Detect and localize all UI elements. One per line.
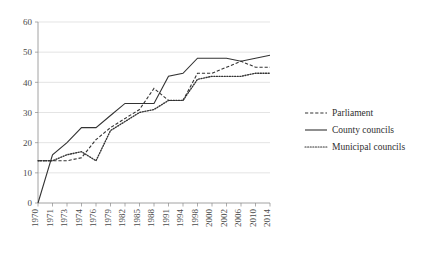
y-tick-label: 10 <box>23 168 33 178</box>
chart-canvas: 0102030405060 19701971197319741976197919… <box>0 0 422 256</box>
x-tick-label: 2014 <box>262 209 272 228</box>
x-tick-label: 2010 <box>248 209 258 228</box>
x-tick-label: 2006 <box>233 209 243 228</box>
y-axis <box>35 22 38 203</box>
x-axis <box>38 203 270 207</box>
x-tick-label: 1974 <box>74 209 84 228</box>
x-tick-label: 1988 <box>146 209 156 228</box>
legend-label: Municipal councils <box>332 142 405 152</box>
series-line-county-councils <box>38 55 270 203</box>
x-tick-label: 1976 <box>88 209 98 228</box>
y-tick-label: 60 <box>23 17 33 27</box>
x-tick-label: 1985 <box>132 209 142 228</box>
legend-label: County councils <box>332 125 394 135</box>
legend-label: Parliament <box>332 108 374 118</box>
x-tick-label: 1991 <box>161 209 171 227</box>
x-tick-label: 1970 <box>30 209 40 228</box>
x-tick-label: 1982 <box>117 209 127 227</box>
legend: ParliamentCounty councilsMunicipal counc… <box>305 108 405 152</box>
data-series-group <box>38 55 270 203</box>
x-tick-label: 1973 <box>59 209 69 228</box>
y-tick-label: 20 <box>23 138 33 148</box>
line-chart: 0102030405060 19701971197319741976197919… <box>0 0 422 256</box>
gridlines-group <box>38 22 270 173</box>
x-tick-label: 2000 <box>204 209 214 228</box>
x-tick-labels: 1970197119731974197619791982198519881991… <box>30 209 272 228</box>
x-tick-label: 1998 <box>190 209 200 228</box>
y-tick-label: 0 <box>28 198 33 208</box>
x-tick-label: 1971 <box>45 209 55 227</box>
y-tick-label: 50 <box>23 47 33 57</box>
x-tick-label: 1979 <box>103 209 113 228</box>
y-tick-label: 40 <box>23 78 33 88</box>
series-line-municipal-councils <box>38 73 270 160</box>
x-tick-label: 2002 <box>219 209 229 227</box>
y-tick-label: 30 <box>23 108 33 118</box>
y-tick-labels: 0102030405060 <box>23 17 33 208</box>
x-tick-label: 1994 <box>175 209 185 228</box>
